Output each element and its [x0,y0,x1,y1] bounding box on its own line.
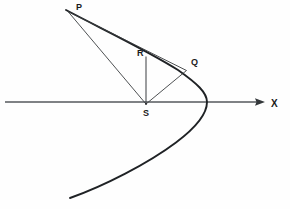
parabola-curve [66,10,207,198]
figure-canvas [0,0,290,209]
point-label-p: P [76,3,82,12]
x-axis-label: X [271,99,278,109]
radius-qs-line [146,71,187,105]
chord-pq-line [68,12,187,71]
focus-point-s [145,103,147,105]
x-axis-arrowhead [255,98,265,106]
radius-ps-line [68,12,146,105]
x-axis-group [5,98,265,106]
point-label-q: Q [191,58,198,67]
point-label-s: S [143,109,149,118]
parabola-figure: P Q R S X [0,0,290,209]
point-label-r: R [137,49,144,58]
